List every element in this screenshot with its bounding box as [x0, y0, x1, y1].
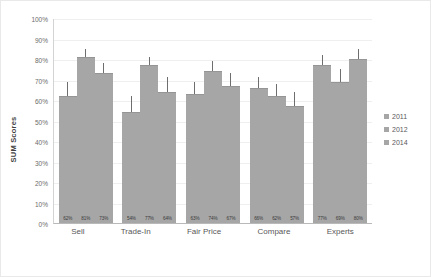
y-axis-title: SUM Scores [7, 1, 21, 277]
y-axis-tick: 30% [35, 159, 48, 166]
bar-value-label: 80% [354, 216, 363, 221]
y-axis-tick: 70% [35, 77, 48, 84]
x-axis-tick: Sell [71, 227, 84, 236]
legend-swatch-icon [384, 114, 389, 119]
y-axis-tick: 10% [35, 200, 48, 207]
bar-group: 66%62%57% [250, 19, 304, 223]
y-axis-tick-labels: 0%10%20%30%40%50%60%70%80%90%100% [21, 19, 51, 224]
bar[interactable]: 73% [95, 73, 113, 223]
bar[interactable]: 66% [250, 88, 268, 223]
legend-item-2014[interactable]: 2014 [384, 138, 430, 147]
bar-value-label: 67% [227, 216, 236, 221]
bar-group: 63%74%67% [186, 19, 240, 223]
bar-value-label: 74% [209, 216, 218, 221]
legend-item-label: 2014 [392, 139, 408, 146]
bar-slot: 57% [286, 19, 304, 223]
bar[interactable]: 77% [140, 65, 158, 223]
bar[interactable]: 80% [349, 59, 367, 223]
y-axis-tick: 50% [35, 118, 48, 125]
bar[interactable]: 64% [158, 92, 176, 223]
y-axis-title-label: SUM Scores [10, 117, 19, 163]
y-axis-tick: 20% [35, 180, 48, 187]
bar-value-label: 62% [63, 216, 72, 221]
bar-value-label: 73% [99, 216, 108, 221]
x-axis-tick: Fair Price [187, 227, 221, 236]
bar-group: 54%77%64% [122, 19, 176, 223]
bar-slot: 66% [250, 19, 268, 223]
bar[interactable]: 57% [286, 106, 304, 223]
bar-groups: 62%81%73%54%77%64%63%74%67%66%62%57%77%6… [54, 19, 372, 223]
bar[interactable]: 62% [59, 96, 77, 223]
bar-value-label: 64% [163, 216, 172, 221]
y-axis-tick: 100% [31, 16, 48, 23]
x-axis-tick: Compare [258, 227, 291, 236]
bar-slot: 80% [349, 19, 367, 223]
y-axis-tick: 60% [35, 98, 48, 105]
bar-slot: 63% [186, 19, 204, 223]
bar-slot: 77% [313, 19, 331, 223]
bar[interactable]: 69% [331, 82, 349, 223]
y-axis-tick: 90% [35, 36, 48, 43]
x-axis-tick-labels: SellTrade-InFair PriceCompareExperts [53, 227, 372, 245]
chart-container: SUM Scores 0%10%20%30%40%50%60%70%80%90%… [0, 0, 431, 277]
bar-slot: 74% [204, 19, 222, 223]
bar-value-label: 81% [81, 216, 90, 221]
legend-swatch-icon [384, 127, 389, 132]
chart-legend: 201120122014 [384, 112, 430, 151]
bar-slot: 62% [268, 19, 286, 223]
bar-value-label: 63% [191, 216, 200, 221]
bar[interactable]: 74% [204, 71, 222, 223]
bar-group: 77%69%80% [313, 19, 367, 223]
bar-value-label: 57% [290, 216, 299, 221]
bar-value-label: 77% [318, 216, 327, 221]
bar-value-label: 66% [254, 216, 263, 221]
legend-item-label: 2011 [392, 113, 407, 120]
bar[interactable]: 63% [186, 94, 204, 223]
bar-slot: 81% [77, 19, 95, 223]
bar[interactable]: 67% [222, 86, 240, 223]
bar[interactable]: 62% [268, 96, 286, 223]
bar-group: 62%81%73% [59, 19, 113, 223]
bar-slot: 54% [122, 19, 140, 223]
bar-value-label: 77% [145, 216, 154, 221]
plot-area: 62%81%73%54%77%64%63%74%67%66%62%57%77%6… [53, 19, 372, 224]
bar[interactable]: 81% [77, 57, 95, 223]
bar-slot: 64% [158, 19, 176, 223]
bar[interactable]: 54% [122, 112, 140, 223]
bar-slot: 69% [331, 19, 349, 223]
legend-item-2011[interactable]: 2011 [384, 112, 430, 121]
y-axis-tick: 0% [39, 221, 48, 228]
bar-slot: 62% [59, 19, 77, 223]
bar-value-label: 69% [336, 216, 345, 221]
bar-value-label: 62% [272, 216, 281, 221]
y-axis-tick: 40% [35, 139, 48, 146]
legend-swatch-icon [384, 140, 389, 145]
x-axis-tick: Trade-In [121, 227, 151, 236]
y-axis-tick: 80% [35, 57, 48, 64]
bar-slot: 73% [95, 19, 113, 223]
bar-value-label: 54% [127, 216, 136, 221]
bar-slot: 77% [140, 19, 158, 223]
legend-item-label: 2012 [392, 126, 408, 133]
bar[interactable]: 77% [313, 65, 331, 223]
x-axis-tick: Experts [327, 227, 354, 236]
bar-slot: 67% [222, 19, 240, 223]
legend-item-2012[interactable]: 2012 [384, 125, 430, 134]
